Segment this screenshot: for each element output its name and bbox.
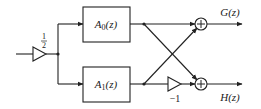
a1-to-top-adder-arrow — [144, 28, 197, 84]
a1-block: A1(z) — [83, 67, 130, 102]
svg-text:2: 2 — [42, 41, 46, 50]
h-output-label: H(z) — [219, 91, 240, 104]
a0-block: A0(z) — [83, 7, 130, 42]
half-gain-label: 1 2 — [41, 32, 47, 50]
bottom-adder-icon — [195, 78, 207, 90]
svg-text:A0(z): A0(z) — [94, 18, 118, 32]
top-adder-icon — [195, 18, 207, 30]
a0-to-bottom-adder-arrow — [144, 24, 197, 80]
negation-gain-label: −1 — [170, 93, 181, 104]
filter-bank-diagram: 1 2 A0(z) A1(z) −1 — [0, 0, 261, 109]
g-output-label: G(z) — [220, 6, 240, 19]
svg-text:1: 1 — [42, 32, 46, 41]
svg-text:A1(z): A1(z) — [94, 78, 118, 92]
negation-amplifier-icon — [168, 77, 181, 91]
